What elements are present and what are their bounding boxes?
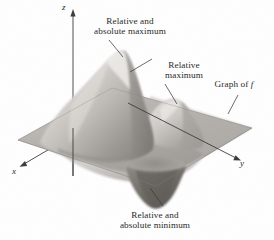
annotation-graph-of-f: Graph of f bbox=[198, 79, 270, 89]
absolute-minimum-dip bbox=[124, 156, 186, 209]
annotation-relative-maximum-line1: Relative bbox=[168, 60, 199, 70]
leader-graph-of-f bbox=[228, 95, 238, 114]
axis-label-z: z bbox=[62, 2, 66, 12]
annotation-absolute-minimum-line1: Relative and bbox=[131, 210, 178, 220]
annotation-absolute-minimum-line2: absolute minimum bbox=[85, 220, 225, 230]
annotation-absolute-minimum: Relative and absolute minimum bbox=[85, 210, 225, 231]
axis-label-y: y bbox=[240, 158, 244, 168]
surface-plot-figure: Relative and absolute maximum Relative m… bbox=[0, 0, 274, 240]
annotation-absolute-maximum-line1: Relative and bbox=[106, 16, 153, 26]
absolute-maximum-peak bbox=[40, 50, 154, 163]
annotation-graph-of-f-text: Graph of bbox=[215, 79, 249, 89]
annotation-graph-of-f-symbol: f bbox=[251, 79, 254, 89]
annotation-absolute-maximum-line2: absolute maximum bbox=[60, 26, 200, 36]
axis-label-x: x bbox=[12, 166, 16, 176]
annotation-absolute-maximum: Relative and absolute maximum bbox=[60, 16, 200, 37]
annotation-relative-maximum: Relative maximum bbox=[140, 60, 228, 81]
